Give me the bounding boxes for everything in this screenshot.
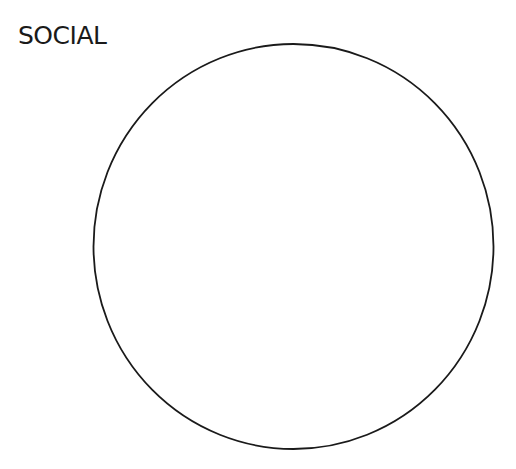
circle-diagram: [0, 0, 516, 469]
diagram-canvas: SOCIAL: [0, 0, 516, 469]
social-circle: [94, 44, 494, 449]
